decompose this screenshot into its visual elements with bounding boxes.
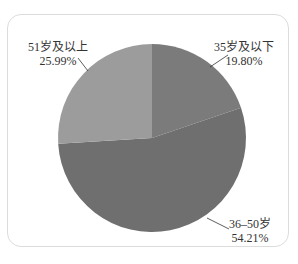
label-senior-pct: 25.99% — [28, 54, 88, 68]
label-middle-pct: 54.21% — [229, 231, 271, 245]
label-senior-name: 51岁及以上 — [28, 40, 88, 54]
label-middle-name: 36–50岁 — [229, 217, 271, 231]
label-middle: 36–50岁 54.21% — [229, 217, 271, 245]
leader-line-middle — [207, 218, 229, 229]
label-young-name: 35岁及以下 — [214, 40, 274, 54]
label-young: 35岁及以下 19.80% — [214, 40, 274, 68]
label-young-pct: 19.80% — [214, 54, 274, 68]
caption-cutoff — [0, 256, 298, 264]
label-senior: 51岁及以上 25.99% — [28, 40, 88, 68]
